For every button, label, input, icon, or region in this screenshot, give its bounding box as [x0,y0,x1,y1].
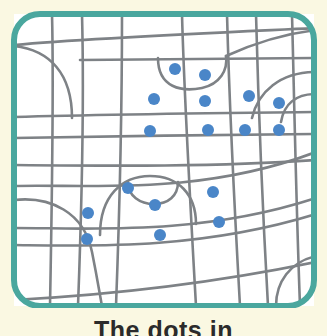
figure-caption: The dots in [0,316,327,336]
location-dot [202,124,214,136]
road-network [14,14,316,306]
location-dot [149,199,161,211]
location-dot [169,63,181,75]
curve-topleft [14,46,72,118]
street-h2 [80,58,316,60]
location-dot [273,97,285,109]
map-figure: The dots in [0,0,327,336]
street-h8 [14,214,316,246]
location-dot [81,233,93,245]
location-dots [81,63,285,245]
location-dot [239,124,251,136]
street-h3 [14,112,316,117]
location-dot [82,207,94,219]
location-dot [199,69,211,81]
location-dot [122,182,134,194]
street-v3 [116,14,122,306]
location-dot [213,216,225,228]
location-dot [199,95,211,107]
location-dot [207,186,219,198]
curve-top-right [226,30,316,56]
street-h1 [14,28,316,45]
street-v2 [78,14,83,306]
location-dot [154,229,166,241]
street-v1 [50,14,53,306]
street-h6 [14,152,316,186]
street-h9 [14,262,316,300]
curved-streets [14,30,316,306]
location-dot [243,90,255,102]
location-dot [273,124,285,136]
curve-right-2 [281,94,316,122]
location-dot [148,93,160,105]
location-dot [144,125,156,137]
street-h4 [14,134,316,138]
street-h5 [14,160,316,166]
map-graphic [0,0,327,336]
curve-top-loop [158,56,226,89]
